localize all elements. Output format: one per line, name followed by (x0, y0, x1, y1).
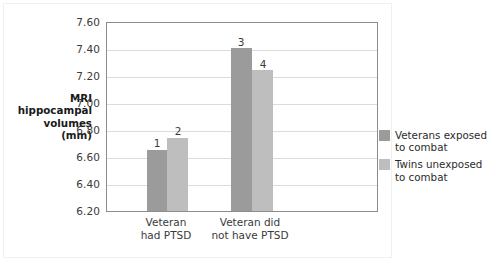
legend-item-veterans-exposed: Veterans exposed to combat (379, 129, 489, 153)
y-axis-tick-labels: 7.60 7.40 7.20 7.00 6.80 6.60 6.40 6.20 (52, 0, 100, 261)
bar-value-label-2: 2 (166, 125, 190, 137)
bar-value-label-1: 1 (145, 137, 169, 149)
x-category-line-2: not have PTSD (190, 229, 310, 242)
x-category-line-1: Veteran did (190, 216, 310, 229)
legend-label-line-2: to combat (395, 171, 482, 183)
x-axis-category-label-2: Veteran did not have PTSD (190, 216, 310, 241)
y-tick-label: 7.60 (54, 17, 100, 27)
y-tick-label: 6.40 (54, 179, 100, 189)
y-tick-label: 7.00 (54, 98, 100, 108)
legend-label-line-1: Veterans exposed (395, 129, 487, 141)
bar-series2-category2 (252, 70, 273, 211)
legend-label-line-2: to combat (395, 141, 487, 153)
y-tick-label: 7.20 (54, 71, 100, 81)
legend-label-line-1: Twins unexposed (395, 158, 482, 170)
bar-series2-category1 (167, 138, 188, 211)
chart-legend: Veterans exposed to combat Twins unexpos… (379, 129, 489, 188)
plot-area: 1 2 3 4 Veterans exposed to combat Twins… (106, 22, 378, 212)
legend-swatch-icon (379, 159, 390, 170)
bar-value-label-3: 3 (229, 36, 253, 48)
legend-item-twins-unexposed: Twins unexposed to combat (379, 158, 489, 182)
legend-swatch-icon (379, 130, 390, 141)
legend-item-label: Twins unexposed to combat (395, 158, 482, 182)
bar-series1-category1 (147, 150, 167, 211)
bar-value-label-4: 4 (251, 58, 275, 70)
y-tick-label: 6.20 (54, 206, 100, 216)
legend-item-label: Veterans exposed to combat (395, 129, 487, 153)
y-tick-label: 6.60 (54, 152, 100, 162)
bar-series1-category2 (231, 48, 252, 211)
y-tick-label: 7.40 (54, 44, 100, 54)
y-tick-label: 6.80 (54, 125, 100, 135)
